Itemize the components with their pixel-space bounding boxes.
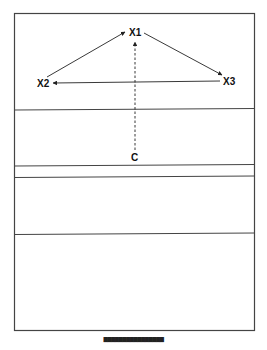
- node-x2-label: X2: [37, 78, 50, 89]
- panel-divider-3: [15, 176, 255, 178]
- diagram-canvas: X1 X2 X3 C: [0, 0, 267, 350]
- edge-x1-to-x3: [144, 33, 222, 75]
- panel-divider-4: [15, 233, 255, 235]
- outer-frame: [15, 14, 255, 331]
- panel-divider-2: [15, 165, 255, 167]
- figure-caption: ████████████████: [0, 338, 267, 342]
- node-x3-label: X3: [223, 76, 236, 87]
- node-x1-label: X1: [129, 27, 142, 38]
- panel-divider-1: [15, 109, 255, 111]
- edge-x3-to-x2: [53, 81, 220, 83]
- node-c-label: C: [131, 152, 138, 163]
- edge-x2-to-x1: [47, 32, 125, 77]
